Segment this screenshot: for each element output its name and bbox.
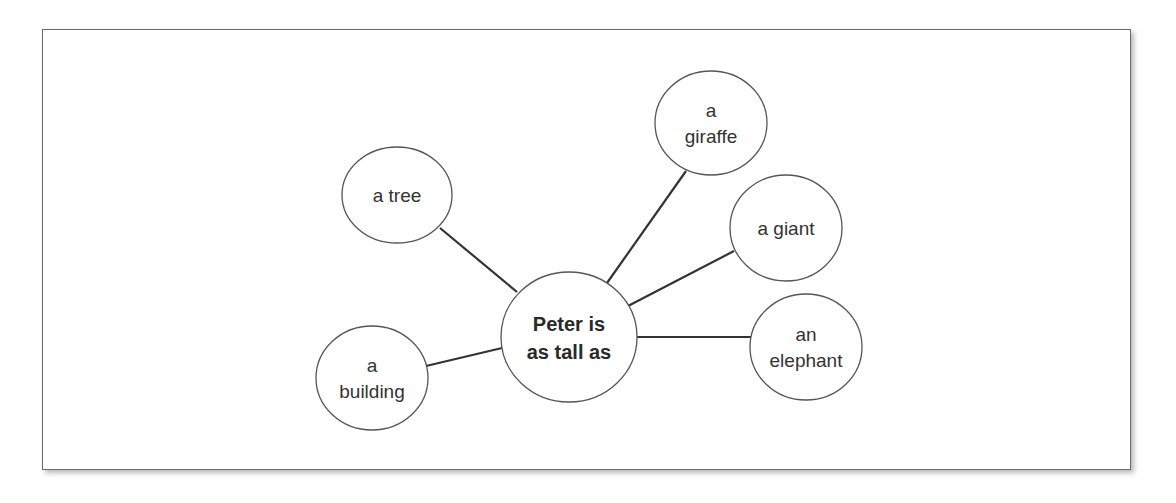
giraffe-line-2: giraffe [685, 124, 737, 150]
node-label-elephant: an elephant [770, 322, 843, 374]
node-label-tree: a tree [373, 183, 422, 209]
word-web-diagram [0, 0, 1176, 503]
building-line-1: a [339, 353, 405, 379]
center-node-label: Peter is as tall as [527, 310, 612, 366]
building-line-2: building [339, 379, 405, 405]
node-label-giraffe: a giraffe [685, 98, 737, 150]
giant-line-1: a giant [757, 216, 814, 242]
node-label-giant: a giant [757, 216, 814, 242]
giraffe-line-1: a [685, 98, 737, 124]
connector-giant [628, 251, 734, 306]
center-line-1: Peter is [527, 310, 612, 338]
center-line-2: as tall as [527, 338, 612, 366]
tree-line-1: a tree [373, 183, 422, 209]
elephant-line-2: elephant [770, 348, 843, 374]
elephant-line-1: an [770, 322, 843, 348]
connector-building [426, 348, 502, 366]
connector-giraffe [607, 171, 686, 283]
node-label-building: a building [339, 353, 405, 405]
connector-tree [440, 228, 517, 292]
